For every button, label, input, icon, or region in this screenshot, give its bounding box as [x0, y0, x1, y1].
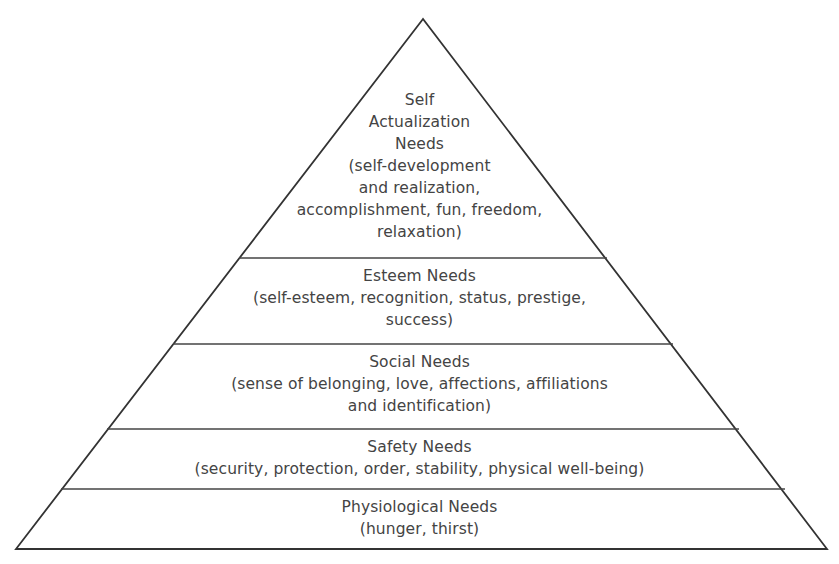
level-title: Physiological Needs	[0, 496, 839, 518]
level-detail: relaxation)	[0, 221, 839, 243]
level-detail: (sense of belonging, love, affections, a…	[0, 373, 839, 395]
level-physiological: Physiological Needs (hunger, thirst)	[0, 496, 839, 540]
level-detail: (security, protection, order, stability,…	[0, 458, 839, 480]
level-social: Social Needs (sense of belonging, love, …	[0, 351, 839, 417]
level-detail: accomplishment, fun, freedom,	[0, 199, 839, 221]
level-title: Self	[0, 89, 839, 111]
level-detail: success)	[0, 309, 839, 331]
level-title: Safety Needs	[0, 436, 839, 458]
level-detail: (hunger, thirst)	[0, 518, 839, 540]
level-title: Social Needs	[0, 351, 839, 373]
maslow-pyramid-diagram: Self Actualization Needs (self-developme…	[0, 0, 839, 564]
level-title: Esteem Needs	[0, 265, 839, 287]
level-self-actualization: Self Actualization Needs (self-developme…	[0, 89, 839, 243]
level-safety: Safety Needs (security, protection, orde…	[0, 436, 839, 480]
level-detail: and identification)	[0, 395, 839, 417]
level-esteem: Esteem Needs (self-esteem, recognition, …	[0, 265, 839, 331]
level-title: Actualization	[0, 111, 839, 133]
level-detail: (self-development	[0, 155, 839, 177]
level-detail: (self-esteem, recognition, status, prest…	[0, 287, 839, 309]
level-title: Needs	[0, 133, 839, 155]
level-detail: and realization,	[0, 177, 839, 199]
